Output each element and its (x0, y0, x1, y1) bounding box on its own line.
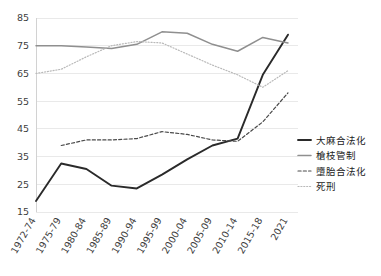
series-line-3 (36, 42, 288, 88)
line-chart: 1525354555657585 1972-741975-791980-8419… (0, 0, 381, 276)
legend-label-1: 槍枝管制 (316, 150, 356, 161)
legend-label-2: 墮胎合法化 (316, 166, 366, 177)
legend-label-3: 死刑 (316, 181, 336, 192)
y-axis-tick-labels: 1525354555657585 (17, 12, 29, 217)
y-tick-label: 65 (17, 68, 29, 79)
y-tick-label: 75 (17, 40, 29, 51)
y-tick-label: 85 (17, 12, 29, 23)
y-tick-label: 35 (17, 151, 29, 162)
x-tick-label: 2015-18 (235, 216, 264, 256)
series-line-1 (36, 32, 288, 51)
data-series (36, 32, 288, 201)
y-tick-label: 55 (17, 96, 29, 107)
legend-label-0: 大麻合法化 (316, 135, 366, 146)
x-axis-tick-labels: 1972-741975-791980-841985-891990-941995-… (8, 216, 289, 256)
chart-canvas: 1525354555657585 1972-741975-791980-8419… (0, 0, 381, 276)
y-tick-label: 25 (17, 179, 29, 190)
y-tick-label: 45 (17, 123, 29, 134)
series-line-0 (36, 35, 288, 201)
x-tick-label: 2021 (268, 216, 290, 242)
chart-legend: 大麻合法化槍枝管制墮胎合法化死刑 (298, 135, 366, 193)
